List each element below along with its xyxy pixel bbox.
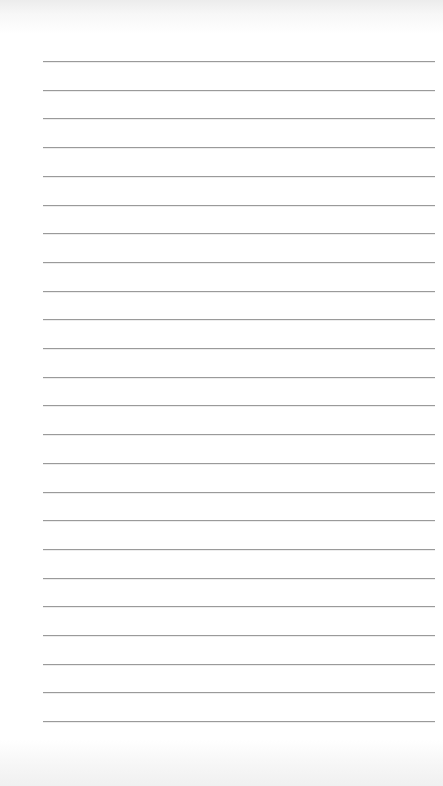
ruled-line: [43, 664, 435, 665]
ruled-line: [43, 692, 435, 693]
ruled-line: [43, 549, 435, 550]
ruled-line: [43, 520, 435, 521]
ruled-line: [43, 147, 435, 148]
ruled-line: [43, 205, 435, 206]
ruled-line: [43, 434, 435, 435]
ruled-line: [43, 405, 435, 406]
ruled-line: [43, 463, 435, 464]
ruled-line: [43, 635, 435, 636]
ruled-line: [43, 348, 435, 349]
ruled-line: [43, 291, 435, 292]
ruled-line: [43, 492, 435, 493]
ruled-line: [43, 377, 435, 378]
ruled-line: [43, 61, 435, 62]
lined-paper-page: [0, 0, 443, 786]
ruled-line: [43, 90, 435, 91]
ruled-line: [43, 262, 435, 263]
ruled-line: [43, 606, 435, 607]
ruled-line: [43, 578, 435, 579]
ruled-line: [43, 233, 435, 234]
ruled-line: [43, 721, 435, 722]
ruled-line: [43, 319, 435, 320]
ruled-line: [43, 118, 435, 119]
ruled-line: [43, 176, 435, 177]
